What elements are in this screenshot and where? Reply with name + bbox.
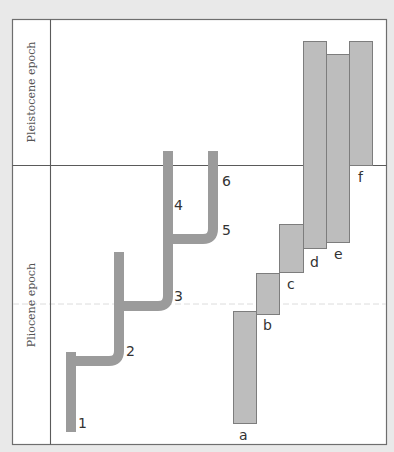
range-bar-b — [257, 274, 280, 315]
lineage-label-3: 3 — [174, 288, 183, 304]
range-label-b: b — [263, 317, 272, 333]
range-bar-f — [350, 42, 373, 166]
epoch-label-pleistocene: Pleistocene epoch — [25, 42, 38, 143]
range-label-e: e — [334, 246, 343, 262]
lineage-label-2: 2 — [126, 343, 135, 359]
lineage-label-5: 5 — [222, 222, 231, 238]
epoch-label-pliocene: Pliocene epoch — [25, 263, 38, 347]
range-label-a: a — [239, 427, 248, 443]
range-bar-d — [304, 42, 327, 249]
range-label-d: d — [310, 254, 319, 270]
range-bar-a — [234, 312, 257, 424]
lineage-label-1: 1 — [78, 415, 87, 431]
range-bar-c — [280, 225, 304, 273]
range-bar-e — [327, 55, 350, 243]
evolution-diagram: Pleistocene epoch Pliocene epoch 1 2 3 4… — [0, 0, 394, 452]
lineage-label-4: 4 — [174, 197, 183, 213]
range-label-c: c — [287, 276, 295, 292]
lineage-label-6: 6 — [222, 173, 231, 189]
